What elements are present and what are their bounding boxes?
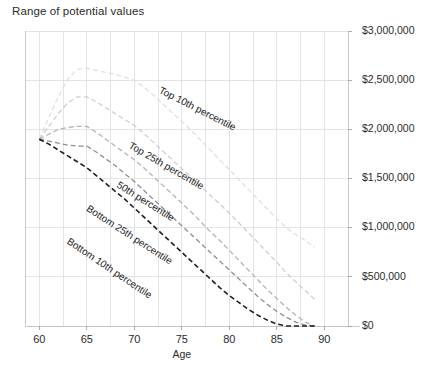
y-tick-label: $2,500,000	[362, 73, 415, 85]
chart-container: Range of potential values Top 10th perce…	[0, 0, 439, 375]
series-inline-labels: Top 10th percentileTop 25th percentile50…	[65, 84, 238, 300]
x-tick-label: 90	[318, 333, 330, 345]
y-axis-tick-labels: $0$500,000$1,000,000$1,500,000$2,000,000…	[362, 24, 415, 331]
x-axis-tick-labels: 60657075808590	[33, 333, 330, 345]
x-tick-label: 80	[223, 333, 235, 345]
y-tick-label: $3,000,000	[362, 24, 415, 36]
y-tick-label: $500,000	[362, 270, 406, 282]
series-line-1	[39, 97, 315, 300]
series-label-0: Top 10th percentile	[157, 84, 238, 132]
x-tick-label: 65	[81, 333, 93, 345]
x-tick-label: 70	[128, 333, 140, 345]
x-tick-label: 60	[33, 333, 45, 345]
y-tick-label: $1,500,000	[362, 171, 415, 183]
y-tick-label: $0	[362, 319, 374, 331]
chart-plot: Top 10th percentileTop 25th percentile50…	[0, 0, 439, 375]
y-tick-label: $1,000,000	[362, 220, 415, 232]
x-tick-label: 85	[271, 333, 283, 345]
series-line-2	[39, 126, 315, 326]
y-tick-label: $2,000,000	[362, 122, 415, 134]
series-label-1: Top 25th percentile	[127, 140, 206, 192]
series-label-2: 50th percentile	[115, 179, 177, 223]
x-axis-title: Age	[172, 348, 191, 360]
x-tick-label: 75	[176, 333, 188, 345]
series-lines	[39, 68, 315, 326]
